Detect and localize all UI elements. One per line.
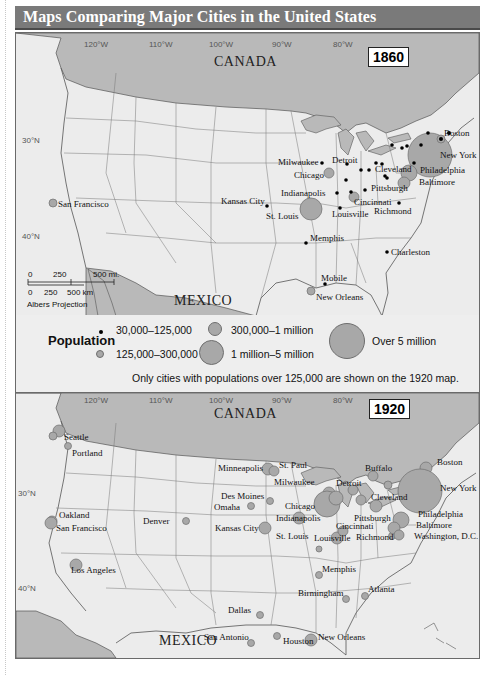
svg-text:120°W: 120°W — [84, 396, 109, 405]
city-marker-cleveland — [356, 495, 366, 505]
canada-label: CANADA — [214, 406, 277, 421]
svg-text:Philadelphia: Philadelphia — [420, 165, 465, 175]
svg-text:Milwaukee: Milwaukee — [274, 477, 315, 487]
svg-text:Boston: Boston — [437, 457, 463, 467]
city-marker-washington-dc — [394, 530, 404, 540]
city-marker-new-orleans — [307, 287, 315, 295]
map-1860: 120°W 110°W 100°W 90°W 80°W 30°N 40°N CA… — [15, 32, 480, 317]
city-marker-new-york — [398, 469, 442, 513]
svg-text:90°W: 90°W — [272, 396, 292, 405]
city-marker-houston — [274, 633, 281, 640]
svg-text:120°W: 120°W — [84, 40, 109, 49]
city-marker-st-paul — [269, 466, 279, 476]
svg-text:Cleveland: Cleveland — [375, 164, 412, 174]
svg-text:250: 250 — [44, 288, 58, 297]
city-marker-kansas-city — [259, 522, 271, 534]
mexico-region — [16, 611, 116, 658]
legend-symbol-xlarge — [329, 323, 365, 359]
legend-label-125k: 125,000–300,000 — [116, 348, 198, 360]
map-1860-svg: 120°W 110°W 100°W 90°W 80°W 30°N 40°N CA… — [16, 33, 479, 316]
city-marker-portland — [65, 443, 72, 450]
city-marker-chicago — [324, 168, 334, 178]
svg-text:Richmond: Richmond — [356, 532, 394, 542]
page-edge — [5, 0, 7, 675]
city-marker-san-francisco — [49, 199, 57, 207]
city-marker-omaha — [248, 503, 255, 510]
svg-text:Dallas: Dallas — [228, 605, 251, 615]
svg-text:Los Angeles: Los Angeles — [71, 565, 116, 575]
city-marker-denver — [183, 518, 190, 525]
city-marker-louisville — [316, 546, 322, 552]
svg-text:110°W: 110°W — [149, 40, 173, 49]
title-bar: Maps Comparing Major Cities in the Unite… — [15, 6, 480, 30]
us-west-coast — [61, 68, 86, 268]
mexico-label: MEXICO — [174, 293, 232, 308]
legend-label-300k: 300,000–1 million — [231, 324, 313, 336]
svg-text:San Francisco: San Francisco — [56, 523, 107, 533]
legend-note: Only cities with populations over 125,00… — [132, 372, 459, 384]
svg-text:St. Louis: St. Louis — [266, 211, 299, 221]
city-marker-des-moines — [267, 498, 274, 505]
svg-text:Indianapolis: Indianapolis — [281, 188, 326, 198]
svg-text:0: 0 — [28, 270, 33, 279]
svg-text:Cincinnati: Cincinnati — [336, 521, 374, 531]
svg-text:30°N: 30°N — [18, 489, 36, 498]
city-marker-birmingham — [343, 596, 350, 603]
svg-text:Des Moines: Des Moines — [221, 491, 265, 501]
year-badge-1860: 1860 — [368, 47, 409, 67]
svg-text:Indianapolis: Indianapolis — [276, 513, 321, 523]
svg-text:Mobile: Mobile — [321, 273, 347, 283]
svg-text:500 km: 500 km — [67, 288, 94, 297]
legend-symbol-large — [199, 340, 224, 365]
svg-text:Richmond: Richmond — [374, 206, 412, 216]
svg-text:500 mi.: 500 mi. — [93, 270, 119, 279]
year-badge-1920: 1920 — [369, 399, 410, 419]
svg-text:Albers Projection: Albers Projection — [27, 300, 87, 309]
svg-text:Kansas City: Kansas City — [215, 523, 259, 533]
svg-text:110°W: 110°W — [149, 396, 173, 405]
svg-text:Birmingham: Birmingham — [298, 588, 344, 598]
svg-text:Seattle: Seattle — [64, 432, 89, 442]
svg-text:Washington, D.C.: Washington, D.C. — [414, 531, 478, 541]
svg-text:Philadelphia: Philadelphia — [418, 509, 463, 519]
svg-text:40°N: 40°N — [18, 584, 36, 593]
svg-text:Houston: Houston — [283, 636, 314, 646]
latitude-labels: 30°N 40°N — [18, 489, 36, 593]
legend-symbol-small — [96, 350, 104, 358]
legend-heading: Population — [48, 333, 115, 348]
svg-text:St. Louis: St. Louis — [276, 531, 309, 541]
canada-label: CANADA — [214, 54, 277, 69]
svg-text:Chicago: Chicago — [294, 170, 324, 180]
svg-text:Detroit: Detroit — [332, 155, 358, 165]
svg-text:San Antonio: San Antonio — [204, 632, 249, 642]
svg-text:Memphis: Memphis — [322, 564, 356, 574]
svg-text:Minneapolis: Minneapolis — [218, 463, 263, 473]
svg-text:St. Paul: St. Paul — [279, 460, 308, 470]
svg-text:80°W: 80°W — [333, 396, 353, 405]
svg-text:Louisville: Louisville — [314, 533, 351, 543]
svg-text:Louisville: Louisville — [332, 209, 369, 219]
svg-text:Kansas City: Kansas City — [221, 196, 265, 206]
svg-text:90°W: 90°W — [272, 40, 292, 49]
svg-text:New Orleans: New Orleans — [318, 632, 366, 642]
svg-text:New Orleans: New Orleans — [316, 292, 364, 302]
svg-text:40°N: 40°N — [22, 232, 40, 241]
city-marker-dallas — [257, 612, 264, 619]
svg-text:250: 250 — [53, 270, 67, 279]
legend-label-5m: Over 5 million — [372, 335, 436, 347]
svg-text:Buffalo: Buffalo — [365, 463, 393, 473]
svg-text:0: 0 — [28, 288, 33, 297]
svg-text:80°W: 80°W — [333, 40, 353, 49]
svg-text:New York: New York — [440, 483, 477, 493]
latitude-labels: 30°N 40°N — [22, 136, 40, 241]
legend-symbol-medium — [208, 322, 222, 336]
svg-text:Baltimore: Baltimore — [419, 177, 455, 187]
svg-text:San Francisco: San Francisco — [58, 199, 109, 209]
svg-text:Detroit: Detroit — [336, 478, 362, 488]
svg-text:Portland: Portland — [72, 448, 103, 458]
svg-text:Chicago: Chicago — [285, 501, 315, 511]
legend-label-1m: 1 million–5 million — [231, 348, 314, 360]
svg-text:Omaha: Omaha — [214, 502, 240, 512]
svg-text:Memphis: Memphis — [310, 233, 344, 243]
bahamas-islands — [424, 623, 456, 649]
